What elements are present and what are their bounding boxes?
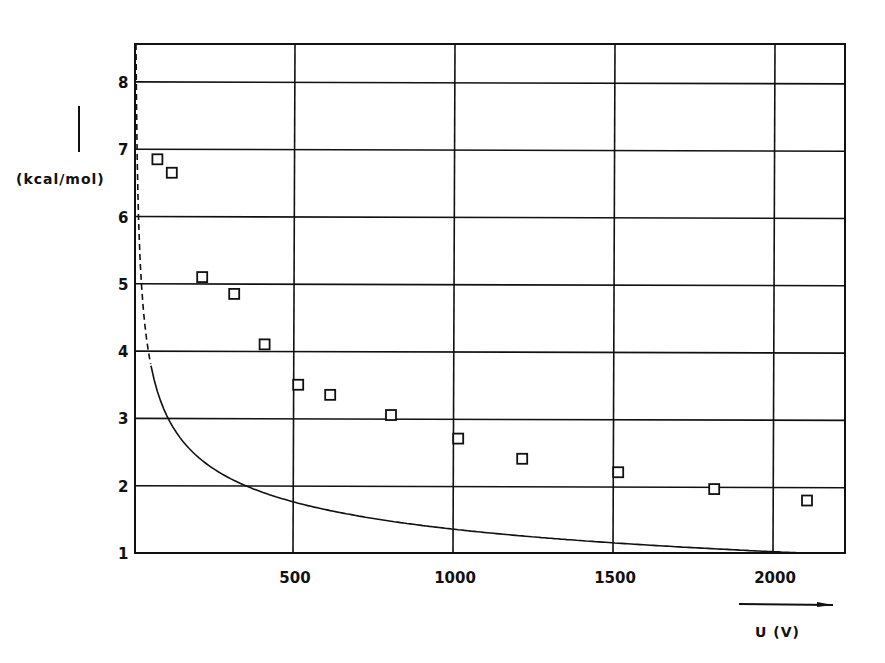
y-tick-label: 8 bbox=[118, 74, 128, 92]
data-point-square bbox=[152, 154, 162, 164]
y-tick-label: 2 bbox=[118, 478, 128, 496]
gridline-y bbox=[135, 217, 845, 219]
data-point-square bbox=[517, 454, 527, 464]
y-tick-label: 7 bbox=[118, 141, 128, 159]
gridline-y bbox=[135, 149, 845, 151]
x-tick-label: 2000 bbox=[754, 569, 796, 587]
fit-curve bbox=[151, 366, 807, 553]
gridline-y bbox=[135, 418, 845, 420]
y-tick-label: 6 bbox=[118, 209, 128, 227]
fit-curve-extrapolation bbox=[136, 44, 151, 364]
y-tick-label: 3 bbox=[118, 410, 128, 428]
data-point-square bbox=[613, 467, 623, 477]
y-tick-label: 5 bbox=[118, 276, 128, 294]
x-axis-ticks: 500100015002000 bbox=[279, 569, 796, 587]
grid-lines bbox=[135, 44, 845, 553]
gridline-y bbox=[135, 82, 845, 84]
data-point-square bbox=[325, 390, 335, 400]
y-axis-ticks: 12345678 bbox=[118, 74, 128, 563]
x-tick-label: 500 bbox=[279, 569, 310, 587]
chart-canvas: 12345678 500100015002000 (kcal/mol) U (V… bbox=[0, 0, 885, 663]
x-tick-label: 1000 bbox=[434, 569, 476, 587]
data-point-square bbox=[453, 434, 463, 444]
data-point-square bbox=[293, 380, 303, 390]
data-point-square bbox=[802, 496, 812, 506]
gridline-y bbox=[135, 284, 845, 286]
x-axis-label: U (V) bbox=[755, 624, 800, 640]
data-point-square bbox=[167, 168, 177, 178]
x-tick-label: 1500 bbox=[594, 569, 636, 587]
y-tick-label: 4 bbox=[118, 343, 128, 361]
gridline-y bbox=[135, 351, 845, 353]
gridline-y bbox=[135, 486, 845, 488]
data-point-square bbox=[229, 289, 239, 299]
data-point-square bbox=[260, 339, 270, 349]
gridline-x bbox=[453, 44, 455, 553]
gridline-x bbox=[773, 44, 775, 553]
data-point-square bbox=[386, 410, 396, 420]
data-point-square bbox=[197, 272, 207, 282]
data-points bbox=[152, 154, 812, 505]
data-point-square bbox=[709, 484, 719, 494]
plot-frame bbox=[135, 44, 845, 553]
y-axis-label: (kcal/mol) bbox=[16, 171, 105, 187]
gridline-x bbox=[293, 44, 295, 553]
y-tick-label: 1 bbox=[118, 545, 128, 563]
